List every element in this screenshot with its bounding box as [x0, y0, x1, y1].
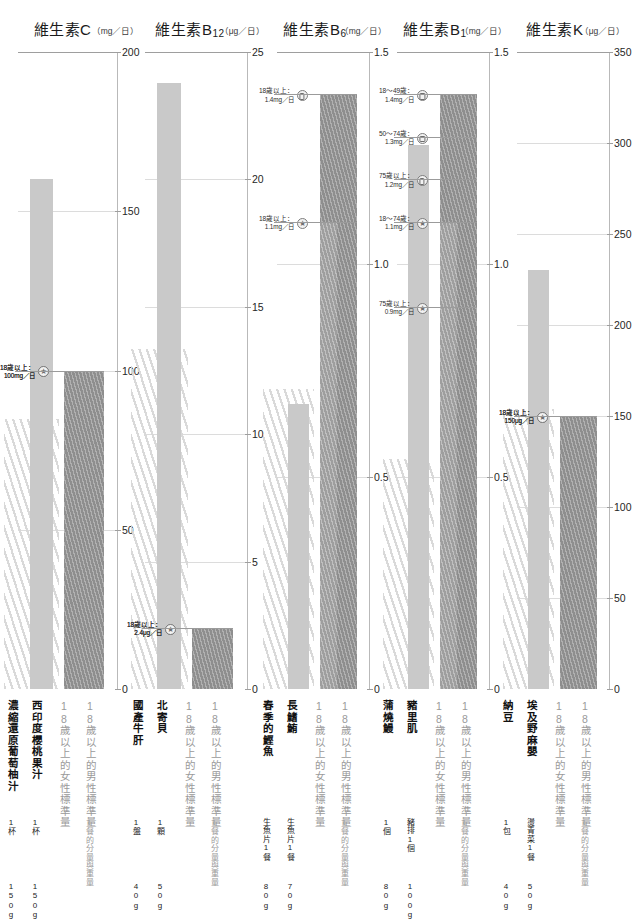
tick-mark: [115, 689, 121, 690]
plot-top-rule: [18, 52, 118, 53]
bar-standard-male: [64, 371, 104, 690]
serving-main: 豬排1個: [405, 818, 413, 853]
annotation-male: 18歲以上：1.4mg／日: [259, 87, 308, 104]
tick-mark: [245, 52, 251, 53]
panel-title-text: 維生素C: [34, 21, 92, 38]
bottom-labels: 濃縮還原葡萄柚汁西印度櫻桃果汁18歲以上的女性標準量18歲以上的男性標準量1杯1…: [0, 700, 125, 910]
bar-food: [528, 270, 549, 689]
female-marker-icon: [165, 624, 176, 635]
gridline: [517, 234, 610, 235]
plot-top-rule: [277, 52, 370, 53]
standard-label-male: 18歲以上的男性標準量: [84, 700, 95, 829]
standard-label-female: 18歲以上的女性標準量: [58, 700, 69, 829]
annotation-leader-line: [394, 137, 477, 138]
annotation-text: 50～74歲：1.3mg／日: [379, 130, 414, 147]
annotation-female: 18歲以上：2.4μg／日: [127, 621, 176, 638]
annotation-female: 18歲以上：1.1mg／日: [259, 215, 308, 232]
annotation-line-2: 100mg／日: [0, 372, 35, 380]
panel-b1: 維生素B1（mg／日）1.51.00.5018～49歲：1.4mg／日50～74…: [375, 0, 495, 920]
female-marker-icon: [417, 218, 428, 229]
annotation-line-2: 1.4mg／日: [259, 96, 294, 104]
annotation-leader-line: [15, 371, 104, 372]
annotation-female: 18～74歲：1.1mg／日: [379, 215, 428, 232]
serving-main: 生魚片1餐: [285, 818, 293, 861]
y-tick-label: 100: [614, 502, 632, 513]
y-tick-label: 200: [614, 320, 632, 331]
annotation-text: 75歲以上：0.9mg／日: [379, 300, 414, 317]
weight-left: 40g: [131, 882, 139, 910]
serving-left: 1盤: [131, 818, 139, 836]
food-label-main: 北寄貝: [155, 700, 166, 735]
weight-main: 150g: [30, 882, 38, 920]
food-label-left: 納豆: [501, 700, 512, 723]
weight-left: 80g: [261, 882, 269, 910]
food-label-main: 西印度櫻桃果汁: [30, 700, 41, 781]
tick-mark: [607, 234, 613, 235]
tick-mark: [607, 507, 613, 508]
tick-mark: [115, 371, 121, 372]
tick-mark: [607, 416, 613, 417]
annotation-leader-line: [394, 307, 477, 308]
serving-left: 1杯: [6, 818, 14, 836]
y-tick-label: 50: [614, 593, 626, 604]
panel-k: 維生素K（μg／日）35030025020015010050018歲以上：150…: [495, 0, 615, 920]
female-marker-icon: [537, 412, 548, 423]
annotation-leader-line: [394, 222, 477, 223]
y-tick-label: 350: [614, 47, 632, 58]
tick-mark: [245, 307, 251, 308]
y-tick-label: 150: [614, 411, 632, 422]
annotation-line-2: 1.4mg／日: [379, 96, 414, 104]
annotation-text: 18歲以上：150μg／日: [499, 409, 534, 426]
female-marker-icon: [297, 218, 308, 229]
tick-mark: [245, 689, 251, 690]
food-label-left: 濃縮還原葡萄柚汁: [6, 700, 17, 792]
axis-unit-label: （μg／日）: [580, 24, 624, 36]
tick-mark: [607, 143, 613, 144]
annotation-leader-line: [274, 94, 357, 95]
annotation-male: 18～49歲：1.4mg／日: [379, 87, 428, 104]
plot-top-rule: [517, 52, 610, 53]
annotation-leader-line: [274, 222, 357, 223]
tick-mark: [115, 211, 121, 212]
serving-main: 1顆: [155, 818, 163, 836]
tick-mark: [487, 52, 493, 53]
weight-main: 70g: [285, 882, 293, 910]
annotation-text: 18歲以上：1.1mg／日: [259, 215, 294, 232]
bar-food: [30, 179, 53, 689]
annotation-female: 18歲以上：150μg／日: [499, 409, 548, 426]
panel-title-text: 維生素K: [526, 21, 583, 38]
tick-mark: [487, 689, 493, 690]
weight-left: 150g: [6, 882, 14, 920]
tick-mark: [115, 52, 121, 53]
bar-food: [157, 83, 181, 689]
standard-label-female: 18歲以上的女性標準量: [183, 700, 194, 829]
panel-b6: 維生素B6（mg／日）1.51.00.5018歲以上：1.4mg／日18歲以上：…: [255, 0, 375, 920]
serving-left: 1個: [381, 818, 389, 836]
serving-left: 1包: [501, 818, 509, 836]
serving-standard-note: 1餐的分量與重量: [209, 818, 217, 886]
annotation-line-2: 1.1mg／日: [379, 223, 414, 231]
bar-standard-female: [440, 222, 457, 689]
standard-label-male: 18歲以上的男性標準量: [579, 700, 590, 829]
tick-mark: [367, 264, 373, 265]
annotation-line-2: 1.1mg／日: [259, 223, 294, 231]
annotation-female: 75歲以上：0.9mg／日: [379, 300, 428, 317]
y-tick-label: 0: [614, 684, 620, 695]
annotation-text: 75歲以上：1.2mg／日: [379, 172, 414, 189]
male-marker-icon: [417, 90, 428, 101]
weight-left: 40g: [501, 882, 509, 910]
weight-left: 80g: [381, 882, 389, 910]
y-axis-line: [369, 52, 370, 689]
female-marker-icon: [38, 366, 49, 377]
annotation-leader-line: [394, 179, 477, 180]
serving-main: 燙青菜1餐: [525, 818, 533, 861]
serving-main: 1杯: [30, 818, 38, 836]
bar-standard-male: [192, 628, 233, 689]
food-label-left: 春季的鰹魚: [261, 700, 272, 758]
y-tick-label: 250: [614, 229, 632, 240]
food-label-left: 國產牛肝: [131, 700, 142, 746]
panel-c: 維生素C（mg／日）20015010050018歲以上：100mg／日18歲以上…: [0, 0, 125, 920]
annotation-leader-line: [514, 416, 597, 417]
tick-mark: [367, 52, 373, 53]
food-label-main: 埃及野麻嬰: [525, 700, 536, 758]
